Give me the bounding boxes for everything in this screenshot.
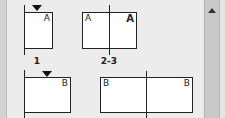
panel-right-border	[220, 0, 225, 118]
master-prefix: A	[126, 14, 134, 23]
spread-spine	[146, 71, 147, 118]
spread-2-3-spine	[109, 5, 110, 55]
master-prefix: A	[44, 14, 50, 23]
vertical-scrollbar[interactable]	[204, 0, 220, 118]
page-thumbnail-2[interactable]: A	[82, 12, 110, 49]
scroll-up-arrow-icon[interactable]	[208, 8, 216, 13]
page-thumbnail-b3[interactable]: B	[146, 77, 193, 113]
page-thumbnail-1[interactable]: A	[24, 12, 53, 49]
page-number-label: 1	[22, 56, 52, 66]
page-thumbnail-b2[interactable]: B	[100, 77, 147, 113]
page-thumbnail-3[interactable]: A	[109, 12, 137, 49]
page-number-label: 2-3	[94, 56, 124, 66]
master-prefix: B	[62, 79, 68, 88]
master-prefix: A	[85, 14, 91, 23]
page-thumbnail-b1[interactable]: B	[24, 77, 71, 113]
master-prefix: B	[103, 79, 109, 88]
master-prefix: B	[184, 79, 190, 88]
panel-left-border	[0, 0, 7, 118]
current-spread-indicator-icon	[32, 5, 42, 11]
